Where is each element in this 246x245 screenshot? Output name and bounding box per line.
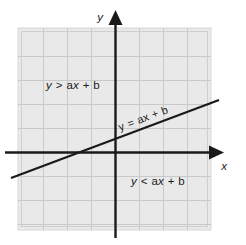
y-axis-arrowhead-icon <box>109 10 123 25</box>
region-above-plus: + <box>83 79 90 91</box>
inequality-diagram: y x y>ax+b y=ax+b y<ax+b <box>0 0 246 245</box>
region-above-intercept: b <box>93 79 99 91</box>
x-axis-arrowhead-icon <box>209 146 224 160</box>
y-axis-label: y <box>96 11 104 23</box>
region-below-plus: + <box>168 175 175 187</box>
region-above-relation: > <box>56 79 63 91</box>
x-axis-label: x <box>220 160 228 172</box>
region-below-relation: < <box>141 175 148 187</box>
region-below-intercept: b <box>178 175 184 187</box>
